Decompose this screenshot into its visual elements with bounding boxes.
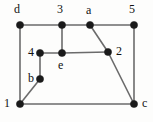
vertex-label-d: d [14,3,20,15]
graph-vertex-d[interactable] [16,21,23,28]
graph-vertex-2[interactable] [104,48,111,55]
graph-vertex-b[interactable] [36,75,43,82]
graph-vertex-5[interactable] [130,21,137,28]
graph-vertex-c[interactable] [130,100,137,107]
vertex-label-b: b [28,72,34,84]
graph-vertex-1[interactable] [16,100,23,107]
vertex-layer [16,21,137,107]
graph-vertex-3[interactable] [58,21,65,28]
vertex-label-1: 1 [4,97,10,109]
graph-figure: d3a54e2b1c [0,0,153,122]
graph-edge-a-2 [90,25,108,52]
graph-canvas [0,0,153,122]
vertex-label-e: e [58,59,63,71]
edge-layer [20,25,134,104]
vertex-label-c: c [142,97,147,109]
graph-vertex-e[interactable] [58,49,65,56]
graph-edge-2-c [108,52,134,104]
vertex-label-5: 5 [129,3,135,15]
graph-vertex-4[interactable] [36,49,43,56]
vertex-label-2: 2 [116,45,122,57]
graph-vertex-a[interactable] [86,21,93,28]
vertex-label-a: a [86,4,91,16]
vertex-label-4: 4 [28,46,34,58]
vertex-label-3: 3 [57,3,63,15]
graph-edge-e-2 [62,52,108,53]
